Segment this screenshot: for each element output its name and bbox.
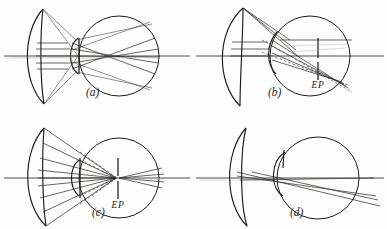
panel-b: EP (b): [196, 8, 384, 106]
ray-trace-svg: (a): [0, 0, 387, 229]
panel-label-b: (b): [268, 86, 282, 99]
figure-canvas: (a): [0, 0, 387, 229]
meniscus-lens-b: [222, 8, 243, 106]
panel-label-d: (d): [290, 206, 304, 219]
entrance-pupil-label-b: EP: [311, 80, 325, 90]
panel-a: (a): [4, 9, 190, 104]
entrance-pupil-label-c: EP: [111, 200, 125, 210]
panel-d: (d): [196, 128, 384, 226]
panel-label-a: (a): [86, 86, 100, 99]
panel-label-c: (c): [92, 206, 105, 219]
meniscus-lens-c: [28, 128, 46, 226]
panel-c: EP (c): [4, 128, 190, 226]
meniscus-lens-a: [27, 9, 44, 104]
